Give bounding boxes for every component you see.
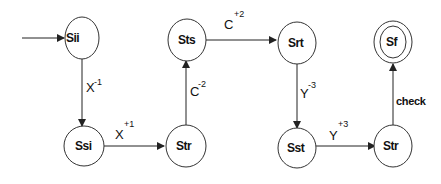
state-label: Sts (178, 33, 196, 47)
edge-srt-sst: Y -3 (297, 64, 316, 128)
edge-sst-str2: Y +3 (316, 119, 375, 146)
state-sii: Sii (65, 17, 99, 59)
edge-label-sup: +3 (338, 119, 348, 129)
edge-label-sup: -2 (198, 79, 206, 89)
edge-sts-srt: C +2 (206, 9, 276, 40)
state-label: Str (383, 139, 399, 153)
edge-label-check: check (396, 95, 427, 107)
edge-sii-ssi: X -1 (82, 59, 102, 126)
edge-label-sup: +1 (124, 119, 134, 129)
edge-label-base: Y (329, 128, 338, 143)
state-diagram: X -1 X +1 C -2 C +2 Y -3 Y +3 check Sii … (0, 0, 441, 184)
state-ssi: Ssi (64, 126, 104, 166)
state-label: Ssi (75, 139, 92, 153)
state-str-2: Str (374, 125, 412, 167)
edge-label-sup: -3 (308, 80, 316, 90)
state-label: Sst (287, 141, 305, 155)
state-sts: Sts (168, 19, 206, 61)
state-sf-final: Sf (374, 21, 412, 63)
edge-ssi-str1: X +1 (104, 119, 164, 146)
edge-label-base: X (115, 127, 124, 142)
state-srt: Srt (278, 22, 316, 64)
edge-label-base: C (224, 17, 233, 32)
state-sst: Sst (278, 128, 316, 168)
state-str-1: Str (166, 125, 206, 167)
state-label: Sii (66, 31, 79, 45)
edge-label-sup: +2 (234, 9, 244, 19)
edge-str1-sts: C -2 (186, 61, 206, 125)
state-label: Sf (386, 35, 399, 49)
state-label: Srt (288, 36, 304, 50)
edge-str2-sf: check (393, 64, 427, 125)
edge-label-sup: -1 (94, 77, 102, 87)
state-label: Str (176, 139, 192, 153)
